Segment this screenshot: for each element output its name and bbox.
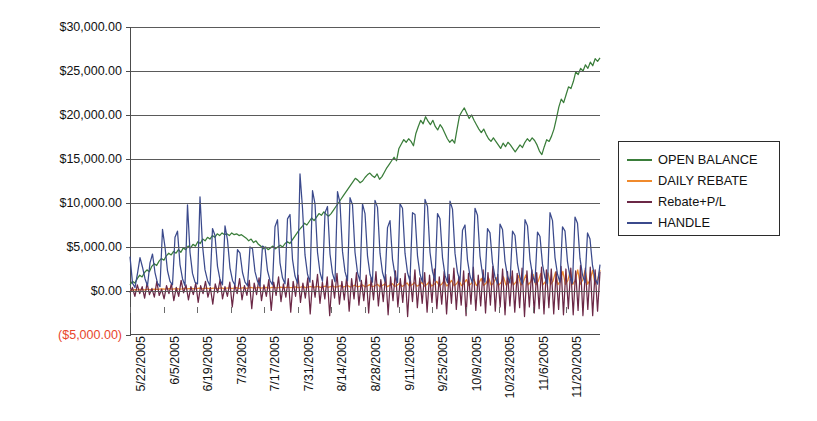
y-axis-tick-label: $20,000.00 [14, 109, 122, 122]
y-axis-tick-mark [126, 159, 131, 160]
x-axis-tick-label: 8/28/2005 [370, 336, 383, 392]
x-axis-tick-label: 6/19/2005 [202, 336, 215, 392]
y-axis-tick-label: $0.00 [14, 285, 122, 298]
legend-item: Rebate+P/L [625, 191, 779, 212]
x-axis-tick-mark [365, 307, 366, 313]
gridline [130, 159, 600, 160]
y-axis-tick-mark [126, 291, 131, 292]
legend-item: OPEN BALANCE [625, 149, 779, 170]
x-axis-tick-label: 5/22/2005 [135, 336, 148, 392]
x-axis-tick-mark [264, 307, 265, 313]
chart-legend: OPEN BALANCEDAILY REBATERebate+P/LHANDLE [618, 141, 780, 236]
x-axis-tick-label: 8/14/2005 [336, 336, 349, 392]
gridline [130, 115, 600, 116]
x-axis-tick-label: 7/3/2005 [236, 336, 249, 385]
legend-color-swatch [627, 222, 652, 224]
x-axis-labels: 5/22/20056/5/20056/19/20057/3/20057/17/2… [130, 336, 600, 421]
x-axis-tick-mark [432, 307, 433, 313]
y-axis-tick-label: $30,000.00 [14, 21, 122, 34]
x-axis-tick-mark [499, 307, 500, 313]
x-axis-tick-label: 7/31/2005 [303, 336, 316, 392]
gridline [130, 71, 600, 72]
x-axis-tick-label: 10/23/2005 [504, 336, 517, 399]
series-lines [130, 27, 600, 335]
y-axis-tick-label: $10,000.00 [14, 197, 122, 210]
y-axis-tick-mark [126, 203, 131, 204]
gridline [130, 247, 600, 248]
x-axis-tick-label: 9/11/2005 [404, 336, 417, 391]
x-axis-tick-label: 6/5/2005 [169, 336, 182, 385]
gridline [130, 203, 600, 204]
legend-item: HANDLE [625, 212, 779, 233]
x-axis-tick-mark [331, 307, 332, 313]
legend-color-swatch [627, 159, 652, 161]
x-axis-tick-mark [466, 307, 467, 313]
x-axis-tick-mark [566, 307, 567, 313]
legend-item: DAILY REBATE [625, 170, 779, 191]
x-axis-tick-label: 11/20/2005 [571, 336, 584, 398]
x-axis-tick-mark [231, 307, 232, 313]
y-axis-labels: $30,000.00$25,000.00$20,000.00$15,000.00… [12, 0, 122, 421]
x-axis-tick-mark [533, 307, 534, 313]
legend-color-swatch [627, 180, 652, 182]
legend-color-swatch [627, 201, 652, 203]
y-axis-tick-label: $15,000.00 [14, 153, 122, 166]
x-axis-tick-mark [130, 307, 131, 313]
y-axis-tick-label: $5,000.00 [14, 241, 122, 254]
legend-label: Rebate+P/L [658, 195, 726, 208]
y-axis-tick-mark [126, 247, 131, 248]
x-axis-tick-label: 7/17/2005 [269, 336, 282, 392]
x-axis-tick-mark [164, 307, 165, 313]
gridline [130, 291, 600, 292]
y-axis-tick-label: $25,000.00 [14, 65, 122, 78]
legend-label: HANDLE [658, 216, 710, 229]
y-axis-tick-label: ($5,000.00) [14, 329, 122, 342]
x-axis-tick-mark [197, 307, 198, 313]
y-axis-tick-mark [126, 115, 131, 116]
plot-area [130, 27, 600, 335]
x-axis-tick-mark [399, 307, 400, 313]
legend-label: OPEN BALANCE [658, 153, 758, 166]
gridline [130, 27, 600, 28]
series-line-handle [130, 174, 600, 288]
legend-label: DAILY REBATE [658, 174, 748, 187]
y-axis-tick-mark [126, 27, 131, 28]
x-axis-tick-label: 10/9/2005 [471, 336, 484, 392]
line-chart: $30,000.00$25,000.00$20,000.00$15,000.00… [0, 0, 817, 421]
x-axis-tick-label: 9/25/2005 [437, 336, 450, 392]
x-axis-tick-label: 11/6/2005 [538, 336, 551, 391]
y-axis-tick-mark [126, 71, 131, 72]
x-axis-tick-mark [298, 307, 299, 313]
